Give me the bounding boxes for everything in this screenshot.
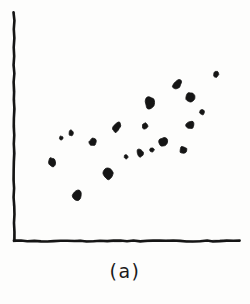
scatter-figure: (a) <box>0 0 250 304</box>
data-point <box>124 155 128 159</box>
data-point <box>145 96 155 109</box>
data-points-group <box>47 71 219 201</box>
figure-caption: (a) <box>0 262 250 281</box>
data-point <box>157 136 168 148</box>
data-point <box>59 136 63 140</box>
data-point <box>111 121 123 134</box>
data-point <box>88 137 98 147</box>
data-point <box>69 130 73 136</box>
axis-group <box>13 12 239 241</box>
data-point <box>137 149 144 158</box>
data-point <box>213 71 219 78</box>
data-point <box>47 157 57 168</box>
data-point <box>178 145 188 155</box>
data-point <box>184 91 196 103</box>
data-point <box>102 167 114 180</box>
data-point <box>150 148 155 152</box>
data-point <box>142 122 149 130</box>
data-point <box>185 120 195 130</box>
scatter-plot-canvas <box>0 0 250 304</box>
data-point <box>71 189 82 201</box>
data-point <box>171 78 183 91</box>
data-point <box>200 110 205 115</box>
